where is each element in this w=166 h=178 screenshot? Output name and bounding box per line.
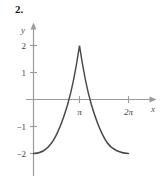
y-tick-label-1: 1	[22, 68, 27, 78]
y-tick-label-minus-1: −1	[16, 122, 26, 132]
x-axis-arrowhead	[150, 97, 157, 103]
y-tick-label-minus-2: −2	[16, 149, 26, 159]
x-tick-label-pi: π	[77, 107, 82, 117]
y-axis-arrowhead	[31, 23, 37, 30]
graph-plot: y x 2 1 −1 −2 π 2π	[0, 0, 166, 178]
y-tick-label-2: 2	[22, 41, 27, 51]
x-axis-label: x	[150, 104, 155, 114]
exercise-figure: 2. y x 2 1 −1 −2 π 2π	[0, 0, 166, 178]
x-tick-label-2pi: 2π	[124, 107, 134, 117]
y-axis-label: y	[20, 25, 25, 35]
